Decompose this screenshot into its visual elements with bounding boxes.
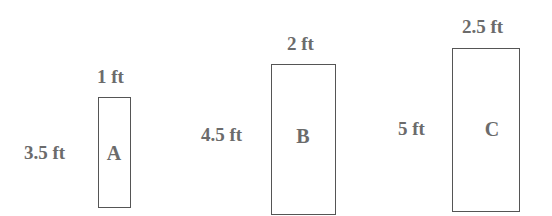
rectangle-b-label: B (296, 126, 309, 146)
rectangle-a-width-label: 1 ft (97, 67, 124, 86)
rectangle-b-height-label: 4.5 ft (201, 125, 242, 144)
rectangle-c-height-label: 5 ft (398, 119, 425, 138)
rectangle-c-label: C (485, 119, 499, 139)
rectangle-a-label: A (107, 143, 121, 163)
rectangle-c-width-label: 2.5 ft (462, 17, 503, 36)
rectangle-a-height-label: 3.5 ft (24, 143, 65, 162)
diagram-canvas: 1 ft 3.5 ft A 2 ft 4.5 ft B 2.5 ft 5 ft … (0, 0, 552, 216)
rectangle-b-width-label: 2 ft (287, 34, 314, 53)
